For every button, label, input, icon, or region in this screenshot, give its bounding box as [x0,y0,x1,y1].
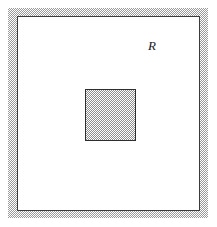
region-diagram: R [0,0,217,227]
region-label-r: R [148,39,156,52]
inner-shaded-square [85,89,136,141]
